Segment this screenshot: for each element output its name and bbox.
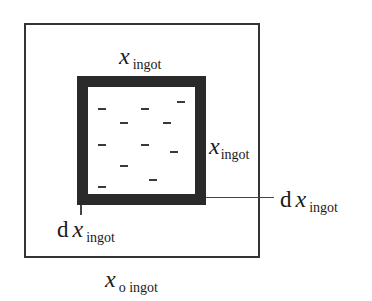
subscript: o ingot (119, 280, 158, 295)
differential-symbol: d (57, 217, 69, 242)
liquid-dash (177, 101, 185, 103)
variable-symbol: x (119, 43, 130, 69)
ingot-wall-box (77, 76, 206, 205)
subscript: ingot (86, 230, 115, 245)
variable-symbol: x (209, 133, 220, 159)
variable-symbol: x (73, 216, 84, 242)
variable-symbol: x (105, 266, 116, 292)
liquid-dash (120, 165, 128, 167)
variable-symbol: x (296, 186, 307, 212)
liquid-dash (98, 144, 106, 146)
liquid-dash (120, 122, 128, 124)
liquid-dash (98, 186, 106, 188)
bottom-wall-thickness-label: dxingot (57, 217, 115, 245)
outer-dimension-label: xo ingot (105, 267, 158, 295)
liquid-dash (170, 151, 178, 153)
subscript: ingot (221, 147, 250, 162)
liquid-dash (149, 179, 157, 181)
differential-symbol: d (280, 187, 292, 212)
liquid-dash (163, 122, 171, 124)
liquid-dash (141, 108, 149, 110)
ingot-diagram: xingot xingot dxingot dxingot xo ingot (0, 0, 372, 301)
top-dimension-label: xingot (119, 44, 161, 72)
bottom-wall-leader-tick (80, 205, 82, 215)
subscript: ingot (133, 57, 162, 72)
right-wall-leader-line (206, 197, 274, 198)
subscript: ingot (309, 200, 338, 215)
liquid-dash (98, 108, 106, 110)
liquid-dash (141, 144, 149, 146)
right-wall-thickness-label: dxingot (280, 187, 338, 215)
right-dimension-label: xingot (209, 134, 249, 162)
